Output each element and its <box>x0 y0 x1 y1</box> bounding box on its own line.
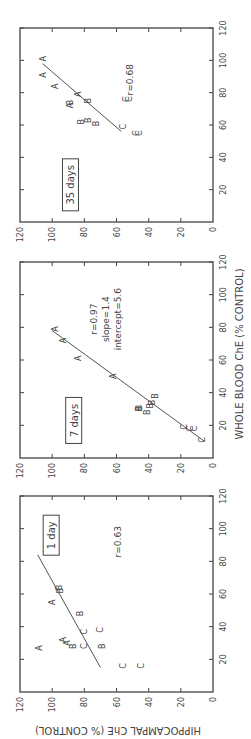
data-point-B: B <box>151 393 160 399</box>
regression-line <box>38 555 101 668</box>
data-point-A: A <box>35 645 44 651</box>
y-tick-label: 100 <box>48 227 57 242</box>
x-tick-label: 120 <box>219 488 228 503</box>
y-tick-label: 120 <box>16 697 25 712</box>
stat-annotation: r=0.63 <box>113 526 123 557</box>
y-tick-label: 40 <box>145 697 154 707</box>
x-tick-label: 20 <box>219 654 228 664</box>
x-tick-label: 60 <box>219 589 228 599</box>
data-point-A: A <box>59 337 68 343</box>
panel-title: 1 day <box>46 521 57 549</box>
data-point-B: B <box>66 100 75 106</box>
panel-35-days: 20406080100120020406080100120AAAAABBBBBC… <box>16 20 228 242</box>
data-point-A: A <box>51 326 60 332</box>
data-point-C: C <box>198 437 207 443</box>
y-tick-label: 20 <box>177 463 186 473</box>
y-tick-label: 40 <box>145 463 154 473</box>
figure-canvas: HIPPOCAMPAL ChE (% CONTROL) WHOLE BLOOD … <box>0 0 251 739</box>
x-tick-label: 80 <box>219 556 228 566</box>
x-tick-label: 40 <box>219 622 228 632</box>
data-point-A: A <box>39 72 48 78</box>
data-point-B: B <box>84 98 93 104</box>
y-tick-label: 40 <box>145 227 154 237</box>
x-tick-label: 80 <box>219 322 228 332</box>
data-point-C: C <box>135 130 144 136</box>
data-point-B: B <box>69 644 78 650</box>
y-tick-label: 100 <box>48 463 57 478</box>
x-tick-label: 80 <box>219 88 228 98</box>
y-tick-label: 80 <box>80 227 89 237</box>
data-point-A: A <box>74 355 83 361</box>
data-point-C: C <box>96 627 105 633</box>
data-point-C: C <box>190 425 199 431</box>
data-point-C: C <box>125 96 134 102</box>
data-point-B: B <box>98 644 107 650</box>
y-tick-label: 100 <box>48 697 57 712</box>
x-tick-label: 100 <box>219 287 228 302</box>
y-tick-label: 60 <box>113 697 122 707</box>
data-point-A: A <box>109 373 118 379</box>
y-tick-label: 20 <box>177 697 186 707</box>
panel-title: 7 days <box>69 404 80 437</box>
x-tick-label: 120 <box>219 254 228 269</box>
y-tick-label: 60 <box>113 227 122 237</box>
data-point-A: A <box>48 599 57 605</box>
data-point-A: A <box>59 636 68 642</box>
y-tick-label: 20 <box>177 227 186 237</box>
stat-annotation: slope=1.4 <box>101 296 111 342</box>
data-point-B: B <box>92 121 101 127</box>
data-point-C: C <box>137 663 146 669</box>
y-tick-label: 120 <box>16 463 25 478</box>
x-tick-label: 40 <box>219 388 228 398</box>
y-tick-label: 0 <box>209 463 218 468</box>
y-tick-label: 120 <box>16 227 25 242</box>
stat-annotation: r=0.97 <box>89 304 99 335</box>
data-point-B: B <box>148 400 157 406</box>
data-point-C: C <box>119 663 128 669</box>
panels: 20406080100120020406080100120AAABCCBCBAB… <box>16 20 228 712</box>
panel-title: 35 days <box>65 165 76 205</box>
data-point-C: C <box>80 628 89 634</box>
x-tick-label: 20 <box>219 185 228 195</box>
stat-annotation: intercept=5.6 <box>113 288 123 351</box>
data-point-A: A <box>74 91 83 97</box>
x-tick-label: 60 <box>219 355 228 365</box>
x-tick-label: 120 <box>219 20 228 35</box>
y-tick-label: 0 <box>209 697 218 702</box>
y-axis-label: HIPPOCAMPAL ChE (% CONTROL) <box>35 725 201 736</box>
panel-7-days: 20406080100120020406080100120AAAABBBBBBC… <box>16 254 228 478</box>
y-tick-label: 80 <box>80 697 89 707</box>
x-tick-label: 40 <box>219 152 228 162</box>
x-axis-label: WHOLE BLOOD ChE (% CONTROL) <box>234 268 245 439</box>
y-tick-label: 80 <box>80 463 89 473</box>
data-point-B: B <box>55 585 64 591</box>
data-point-C: C <box>119 123 128 129</box>
panel-1-day: 20406080100120020406080100120AAABCCBCBAB… <box>16 488 228 712</box>
data-point-C: C <box>80 643 89 649</box>
x-tick-label: 60 <box>219 120 228 130</box>
y-tick-label: 0 <box>209 227 218 232</box>
data-point-B: B <box>76 611 85 617</box>
x-tick-label: 100 <box>219 521 228 536</box>
x-tick-label: 20 <box>219 420 228 430</box>
y-tick-label: 60 <box>113 463 122 473</box>
data-point-B: B <box>143 410 152 416</box>
plot-frame <box>20 28 213 222</box>
data-point-A: A <box>39 55 48 61</box>
stat-annotation: r=0.68 <box>125 64 135 96</box>
rotated-figure: HIPPOCAMPAL ChE (% CONTROL) WHOLE BLOOD … <box>0 0 251 739</box>
data-point-A: A <box>51 83 60 89</box>
x-tick-label: 100 <box>219 53 228 68</box>
